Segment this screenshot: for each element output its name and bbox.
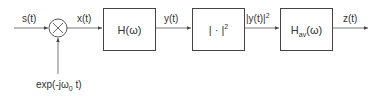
y-squared-base: |y(t)| — [246, 13, 266, 24]
signal-label-y-squared: |y(t)|2 — [246, 14, 270, 24]
signal-label-y: y(t) — [164, 14, 178, 24]
magnitude-exponent: 2 — [224, 23, 228, 30]
block-averaging-filter-label: Hav(ω) — [291, 24, 322, 36]
block-averaging-filter: Hav(ω) — [280, 8, 333, 51]
signal-label-s: s(t) — [22, 14, 36, 24]
magnitude-base: | · | — [209, 24, 225, 36]
block-filter-h-label: H(ω) — [118, 24, 142, 36]
oscillator-label: exp(-jω0 t) — [36, 80, 82, 90]
oscillator-prefix: exp(-jω — [36, 79, 69, 90]
signal-label-z: z(t) — [343, 14, 357, 24]
hav-suffix: (ω) — [306, 24, 322, 36]
hav-base: H — [291, 24, 299, 36]
block-magnitude-squared: | · |2 — [192, 8, 245, 51]
signal-label-x: x(t) — [77, 14, 91, 24]
block-filter-h: H(ω) — [103, 8, 156, 51]
block-magnitude-squared-label: | · |2 — [209, 24, 228, 36]
oscillator-suffix: t) — [73, 79, 82, 90]
y-squared-exponent: 2 — [266, 12, 270, 19]
